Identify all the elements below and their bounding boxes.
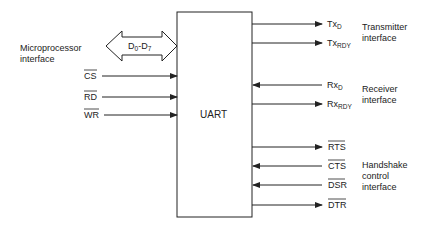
transmitter-interface-label: Transmitter interface — [362, 22, 407, 43]
svg-text:RTS: RTS — [328, 142, 346, 152]
svg-text:CS: CS — [84, 71, 97, 81]
handshake-interface-label: Handshake control interface — [362, 160, 408, 192]
svg-text:TxD: TxD — [327, 19, 342, 30]
receiver-interface-label: Receiver interface — [362, 84, 398, 105]
svg-text:CTS: CTS — [328, 161, 346, 171]
svg-text:interface: interface — [362, 182, 397, 192]
svg-text:Transmitter: Transmitter — [362, 22, 407, 32]
svg-text:DTR: DTR — [328, 200, 347, 210]
uart-label: UART — [200, 109, 227, 120]
signal-cts: CTS — [253, 160, 346, 171]
uart-diagram: UART D0-D7 Microprocessor interface CS R… — [0, 0, 425, 234]
svg-text:RxRDY: RxRDY — [327, 99, 352, 110]
svg-text:Microprocessor: Microprocessor — [20, 43, 82, 53]
svg-text:interface: interface — [362, 33, 397, 43]
signal-txrdy: TxRDY — [252, 38, 351, 49]
svg-text:DSR: DSR — [328, 180, 348, 190]
microprocessor-interface-label: Microprocessor interface — [20, 43, 82, 64]
svg-text:RxD: RxD — [327, 80, 343, 91]
svg-text:TxRDY: TxRDY — [327, 38, 351, 49]
svg-text:RD: RD — [84, 92, 97, 102]
signal-rxd: RxD — [253, 80, 343, 91]
svg-text:interface: interface — [20, 54, 55, 64]
svg-text:control: control — [362, 171, 389, 181]
svg-text:WR: WR — [84, 110, 99, 120]
svg-text:Receiver: Receiver — [362, 84, 398, 94]
signal-rts: RTS — [252, 141, 346, 152]
signal-cs: CS — [84, 70, 177, 81]
signal-wr: WR — [84, 109, 177, 120]
signal-rxrdy: RxRDY — [252, 99, 352, 110]
svg-text:interface: interface — [362, 95, 397, 105]
signal-dtr: DTR — [252, 199, 347, 210]
signal-dsr: DSR — [253, 179, 348, 190]
signal-rd: RD — [84, 91, 177, 102]
signal-txd: TxD — [252, 19, 342, 30]
svg-text:Handshake: Handshake — [362, 160, 408, 170]
